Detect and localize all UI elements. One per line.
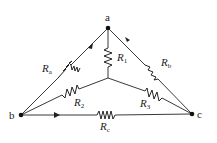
label-Rb: Rb: [160, 56, 172, 70]
label-Rc: Rc: [99, 120, 110, 134]
resistor-Ra: [21, 28, 108, 115]
resistor-R1: [104, 28, 112, 78]
current-arrow-icon: [125, 37, 130, 42]
label-R3: R3: [139, 97, 151, 111]
resistor-R2: [21, 78, 108, 115]
node-label-c: c: [197, 108, 202, 120]
resistor-Rb: [108, 28, 192, 114]
node-c: [190, 112, 195, 117]
node-b: [19, 113, 24, 118]
node-label-a: a: [105, 11, 110, 23]
node-a: [106, 26, 111, 31]
circuit-diagram: a b c Ra Rb Rc R1 R2 R3: [0, 0, 217, 143]
current-arrow-icon: [54, 112, 60, 118]
current-arrow-icon: [88, 43, 93, 49]
label-Ra: Ra: [41, 62, 53, 76]
label-R1: R1: [116, 51, 128, 65]
label-R2: R2: [73, 96, 85, 110]
resistor-Rc: [21, 111, 192, 119]
node-label-b: b: [9, 109, 15, 121]
